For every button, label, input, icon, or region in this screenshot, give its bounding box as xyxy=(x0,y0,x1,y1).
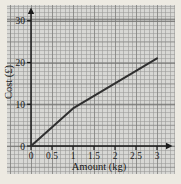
x-tick-label: 2 xyxy=(113,151,118,161)
graph-panel: 00.511.522.530102030Amount (kg)Cost (£) xyxy=(0,0,181,184)
x-axis-arrowhead-icon xyxy=(166,143,173,149)
x-tick-label: 2.5 xyxy=(130,151,142,161)
x-tick-label: 0.5 xyxy=(46,151,58,161)
x-tick-label: 0 xyxy=(29,151,34,161)
y-tick-label: 30 xyxy=(16,16,26,26)
x-axis-title: Amount (kg) xyxy=(72,161,127,173)
x-tick-label: 3 xyxy=(155,151,160,161)
y-tick-label: 10 xyxy=(16,100,26,110)
cost-amount-line-chart: 00.511.522.530102030Amount (kg)Cost (£) xyxy=(0,0,181,184)
y-tick-label: 0 xyxy=(20,142,25,152)
y-axis-title: Cost (£) xyxy=(3,64,15,99)
data-line-cost-vs-amount-line xyxy=(31,58,157,146)
y-tick-label: 20 xyxy=(16,58,26,68)
x-tick-label: 1 xyxy=(71,151,76,161)
y-axis-arrowhead-icon xyxy=(28,8,34,15)
x-tick-label: 1.5 xyxy=(88,151,100,161)
